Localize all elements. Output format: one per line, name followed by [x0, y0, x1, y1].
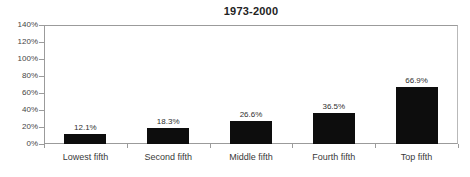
- x-axis-tick-mark: [44, 144, 45, 148]
- y-axis-tick-mark: [39, 42, 44, 43]
- bar-value-label: 36.5%: [304, 102, 364, 111]
- y-axis-tick-mark: [39, 110, 44, 111]
- y-axis: 0%20%40%60%80%100%120%140%: [0, 25, 38, 144]
- x-axis-tick-mark: [292, 144, 293, 148]
- bar-value-label: 66.9%: [387, 76, 447, 85]
- y-axis-tick-label: 120%: [0, 38, 38, 46]
- y-axis-tick-label: 80%: [0, 72, 38, 80]
- chart-title: 1973-2000: [44, 4, 458, 18]
- x-axis-tick-mark: [210, 144, 211, 148]
- y-axis-tick-label: 60%: [0, 89, 38, 97]
- y-axis-tick-label: 140%: [0, 21, 38, 29]
- y-axis-tick-label: 100%: [0, 55, 38, 63]
- y-axis-tick-mark: [39, 127, 44, 128]
- bar-value-label: 18.3%: [138, 117, 198, 126]
- bar-value-label: 12.1%: [55, 123, 115, 132]
- x-axis-category-label: Middle fifth: [210, 152, 293, 163]
- x-axis-category-label: Top fifth: [375, 152, 458, 163]
- x-axis-category-label: Second fifth: [127, 152, 210, 163]
- y-axis-tick-label: 20%: [0, 123, 38, 131]
- x-axis-category-label: Lowest fifth: [44, 152, 127, 163]
- bar: [313, 113, 355, 144]
- y-axis-tick-mark: [39, 76, 44, 77]
- bar-chart-figure: 1973-2000 0%20%40%60%80%100%120%140% 12.…: [0, 0, 470, 177]
- bar: [147, 128, 189, 144]
- y-axis-tick-mark: [39, 25, 44, 26]
- x-axis-tick-mark: [458, 144, 459, 148]
- bar: [396, 87, 438, 144]
- bar-value-label: 26.6%: [221, 110, 281, 119]
- x-axis-category-label: Fourth fifth: [292, 152, 375, 163]
- y-axis-tick-mark: [39, 93, 44, 94]
- bar: [64, 134, 106, 144]
- y-axis-tick-label: 40%: [0, 106, 38, 114]
- x-axis-tick-mark: [375, 144, 376, 148]
- bar: [230, 121, 272, 144]
- y-axis-tick-mark: [39, 144, 44, 145]
- y-axis-tick-label: 0%: [0, 140, 38, 148]
- y-axis-tick-mark: [39, 59, 44, 60]
- x-axis-tick-mark: [127, 144, 128, 148]
